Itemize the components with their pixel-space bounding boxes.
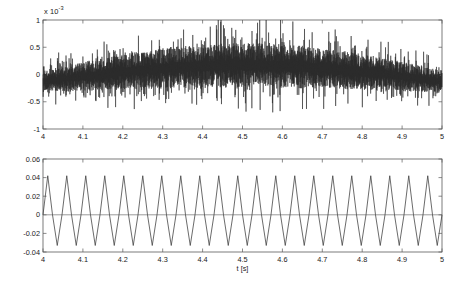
top-xtick-label: 4.5	[237, 132, 247, 141]
top-xtick-label: 5	[440, 132, 444, 141]
bottom-ytick-label: -0.04	[23, 248, 40, 257]
bottom-xtick-label: 4.6	[277, 255, 287, 264]
top-axes-panel: x 10-3 44.14.24.34.44.54.64.74.84.95-1-0…	[0, 0, 458, 141]
figure-root: x 10-3 44.14.24.34.44.54.64.74.84.95-1-0…	[0, 0, 458, 282]
bottom-xtick-label: 4.5	[237, 255, 247, 264]
bottom-xtick-label: 4.3	[158, 255, 168, 264]
top-ytick-label: -0.5	[27, 97, 40, 106]
top-xtick-label: 4.7	[317, 132, 327, 141]
exponent-mantissa: x 10	[44, 7, 59, 16]
bottom-xtick-label: 4.8	[357, 255, 367, 264]
bottom-xaxis-title: t [s]	[237, 264, 249, 273]
top-xtick-label: 4.3	[158, 132, 168, 141]
top-ytick-label: -1	[34, 125, 41, 134]
top-axis-exponent-label: x 10-3	[44, 5, 64, 16]
top-ytick-label: 0.5	[30, 43, 40, 52]
top-plot-canvas: 44.14.24.34.44.54.64.74.84.95-1-0.500.51	[0, 0, 458, 141]
top-xtick-label: 4.1	[78, 132, 88, 141]
bottom-xtick-label: 4.1	[78, 255, 88, 264]
bottom-triangle-trace	[43, 176, 442, 246]
bottom-ytick-label: 0.04	[26, 173, 40, 182]
bottom-ytick-label: 0.06	[26, 155, 40, 164]
bottom-xtick-label: 4.9	[397, 255, 407, 264]
top-xtick-label: 4	[41, 132, 45, 141]
top-xtick-label: 4.8	[357, 132, 367, 141]
bottom-xtick-label: 4.7	[317, 255, 327, 264]
top-xtick-label: 4.6	[277, 132, 287, 141]
bottom-plot-canvas: 44.14.24.34.44.54.64.74.84.95-0.04-0.020…	[0, 141, 458, 282]
top-xtick-label: 4.9	[397, 132, 407, 141]
bottom-ytick-label: 0.02	[26, 192, 40, 201]
bottom-xtick-label: 5	[440, 255, 444, 264]
top-ytick-label: 0	[36, 70, 40, 79]
bottom-ytick-label: -0.02	[23, 229, 40, 238]
bottom-xtick-label: 4.4	[198, 255, 208, 264]
bottom-xtick-label: 4	[41, 255, 45, 264]
bottom-xtick-label: 4.2	[118, 255, 128, 264]
top-xtick-label: 4.2	[118, 132, 128, 141]
exponent-power: -3	[59, 5, 64, 11]
top-ytick-label: 1	[36, 16, 40, 25]
bottom-axes-panel: 44.14.24.34.44.54.64.74.84.95-0.04-0.020…	[0, 141, 458, 282]
top-noise-trace	[43, 20, 442, 112]
top-xtick-label: 4.4	[198, 132, 208, 141]
bottom-ytick-label: 0	[36, 210, 40, 219]
